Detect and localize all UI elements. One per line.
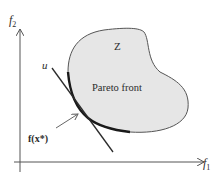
x-axis-label: f1 <box>203 156 210 172</box>
point-arrow <box>56 114 78 128</box>
region-label: Z <box>114 40 121 52</box>
pareto-diagram: f2 f1 u Z Pareto front f(x*) <box>0 0 216 176</box>
y-axis-label: f2 <box>9 13 16 29</box>
optimal-point-label: f(x*) <box>28 133 48 145</box>
tangent-label: u <box>42 59 48 71</box>
pareto-front-label: Pareto front <box>92 82 142 93</box>
